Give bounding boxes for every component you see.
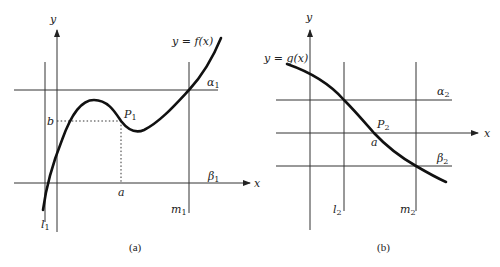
caption-a: (a) <box>129 241 142 254</box>
beta2-label: β2 <box>436 152 448 166</box>
a-value-label-a: a <box>118 186 125 199</box>
figure-canvas: y x β1 α1 l1 m1 b a P1 y = f(x) (a) y <box>0 0 500 267</box>
x-axis-label-b: x <box>484 127 491 140</box>
beta1-label: β1 <box>207 170 219 184</box>
x-axis-label-a: x <box>254 177 261 190</box>
alpha2-label: α2 <box>437 85 450 99</box>
g-function-label: y = g(x) <box>263 52 308 65</box>
m1-label: m1 <box>171 203 187 217</box>
b-value-label: b <box>47 115 54 128</box>
curve-g <box>287 64 446 182</box>
panel-a: y x β1 α1 l1 m1 b a P1 y = f(x) (a) <box>14 13 261 254</box>
f-function-label: y = f(x) <box>171 35 213 48</box>
y-axis-label-b: y <box>305 11 313 24</box>
a-value-label-b: a <box>371 136 378 149</box>
caption-b: (b) <box>377 241 390 254</box>
p2-label: P2 <box>376 118 390 132</box>
y-axis-label-a: y <box>49 13 57 26</box>
p1-label: P1 <box>123 108 137 122</box>
m2-label: m2 <box>400 203 416 217</box>
alpha1-label: α1 <box>207 76 220 90</box>
curve-f <box>43 38 221 210</box>
l2-label: l2 <box>333 203 342 217</box>
panel-b: y x α2 β2 l2 m2 P2 a y = g(x) (b) <box>263 11 491 254</box>
